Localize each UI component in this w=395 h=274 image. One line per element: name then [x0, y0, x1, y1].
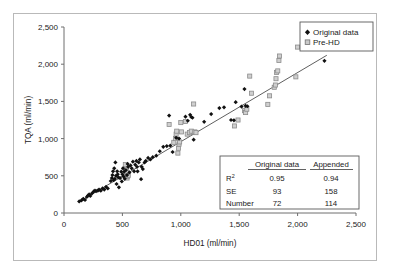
data-point-pre-hd: [175, 129, 179, 133]
data-point-pre-hd: [194, 131, 198, 135]
stats-value-r2-appended: 0.94: [323, 174, 339, 183]
data-point-pre-hd: [245, 107, 249, 111]
y-axis-title: TQA (ml/min): [24, 96, 33, 144]
data-point-original: [232, 118, 236, 122]
x-tick-label: 2,000: [288, 220, 309, 229]
data-point-original: [131, 160, 135, 164]
data-point-pre-hd: [179, 130, 183, 134]
x-axis-title: HD01 (ml/min): [184, 239, 237, 248]
data-point-original: [167, 113, 171, 117]
stats-header-original-data: Original data: [255, 160, 300, 169]
data-point-original: [139, 177, 143, 181]
scatter-plot: 05001,0001,5002,0002,500 05001,0001,5002…: [14, 14, 376, 260]
data-point-original: [192, 138, 196, 142]
data-point-original: [202, 120, 206, 124]
y-tick-label: 2,500: [38, 23, 59, 32]
data-point-pre-hd: [294, 75, 298, 79]
data-point-pre-hd: [248, 74, 252, 78]
data-point-original: [114, 182, 118, 186]
data-point-pre-hd: [176, 151, 180, 155]
data-point-pre-hd: [232, 124, 236, 128]
data-point-original: [171, 150, 175, 154]
data-point-original: [234, 100, 238, 104]
data-point-pre-hd: [178, 140, 182, 144]
stats-value-number-appended: 114: [325, 199, 338, 208]
data-point-original: [120, 179, 124, 183]
y-tick-label: 500: [45, 172, 59, 181]
figure-frame: 05001,0001,5002,0002,500 05001,0001,5002…: [13, 13, 377, 261]
stats-value-se-appended: 158: [324, 187, 337, 196]
data-point-pre-hd: [236, 118, 240, 122]
stats-row-label-se: SE: [226, 187, 236, 196]
data-point-pre-hd: [274, 77, 278, 81]
stats-value-se-original: 93: [273, 187, 282, 196]
data-point-original: [183, 115, 187, 119]
legend-label-pre-hd: Pre-HD: [313, 38, 340, 47]
figure-root: 05001,0001,5002,0002,500 05001,0001,5002…: [0, 0, 395, 274]
data-point-original: [158, 149, 162, 153]
data-point-pre-hd: [276, 69, 280, 73]
y-axis-ticks: 05001,0001,5002,0002,500: [38, 23, 64, 218]
x-tick-label: 2,500: [346, 220, 367, 229]
x-tick-label: 500: [116, 220, 130, 229]
data-point-original: [222, 105, 226, 109]
data-point-pre-hd: [176, 146, 180, 150]
data-point-pre-hd: [266, 102, 270, 106]
data-point-pre-hd: [167, 122, 171, 126]
data-point-original: [110, 173, 114, 177]
data-point-pre-hd: [192, 102, 196, 106]
legend-marker-pre-hd-icon: [305, 40, 310, 45]
stats-value-r2-original: 0.95: [269, 174, 285, 183]
data-point-pre-hd: [277, 58, 281, 62]
data-point-pre-hd: [273, 83, 277, 87]
y-tick-label: 0: [54, 209, 59, 218]
stats-header-appended: Appended: [313, 160, 349, 169]
x-tick-label: 1,500: [229, 220, 250, 229]
legend[interactable]: Original data Pre-HD: [300, 22, 373, 51]
stats-row-label-number: Number: [226, 199, 254, 208]
data-point-pre-hd: [249, 91, 253, 95]
x-axis-ticks: 05001,0001,5002,0002,500: [62, 213, 367, 229]
data-point-original: [165, 144, 169, 148]
x-tick-label: 1,000: [171, 220, 192, 229]
data-point-original: [113, 160, 117, 164]
y-tick-label: 1,500: [38, 97, 59, 106]
stats-table: Original data Appended R2 0.95 0.94 SE 9…: [220, 156, 359, 209]
data-point-original: [217, 106, 221, 110]
data-point-pre-hd: [296, 45, 300, 49]
x-tick-label: 0: [62, 220, 67, 229]
y-tick-label: 2,000: [38, 60, 59, 69]
data-point-original: [242, 87, 246, 91]
data-point-original: [209, 112, 213, 116]
data-point-original: [135, 169, 139, 173]
legend-label-original-data: Original data: [313, 28, 359, 37]
stats-value-number-original: 72: [273, 199, 282, 208]
data-point-original: [117, 185, 121, 189]
data-point-original: [161, 145, 165, 149]
data-point-pre-hd: [268, 94, 272, 98]
data-point-pre-hd: [179, 121, 183, 125]
data-point-pre-hd: [277, 54, 281, 58]
y-tick-label: 1,000: [38, 135, 59, 144]
data-point-original: [322, 59, 326, 63]
